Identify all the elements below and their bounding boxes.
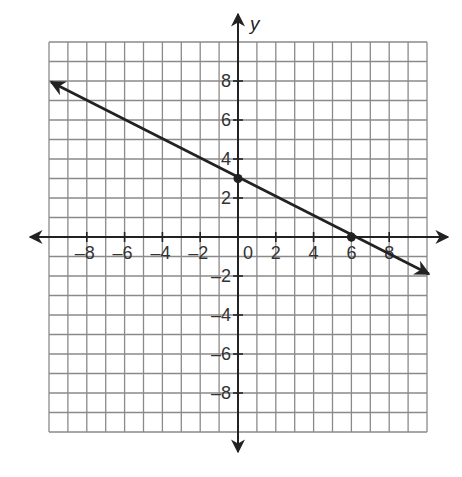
y-tick-label: 8 [221,71,231,91]
x-tick-label: 0 [243,243,253,263]
x-tick-label: –2 [188,243,208,263]
x-tick-label: 2 [271,243,281,263]
axes [30,14,448,452]
y-tick-label: 4 [221,149,231,169]
y-tick-label: –2 [211,266,231,286]
x-tick-label: 4 [309,243,319,263]
x-tick-label: –8 [75,243,95,263]
y-tick-label: 2 [221,188,231,208]
x-tick-label: 6 [346,243,356,263]
y-tick-label: –4 [211,305,231,325]
coordinate-plane: –8–6–4–2024688642–2–4–6–8 y [0,0,462,477]
point-x-intercept [347,233,356,242]
point-y-intercept [234,174,243,183]
x-tick-label: –4 [150,243,170,263]
y-axis-label: y [248,13,261,34]
y-tick-label: 6 [221,110,231,130]
y-tick-label: –6 [211,344,231,364]
x-tick-label: –6 [113,243,133,263]
y-tick-label: –8 [211,383,231,403]
